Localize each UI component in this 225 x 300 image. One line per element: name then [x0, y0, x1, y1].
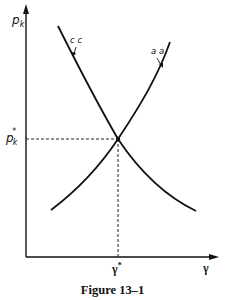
equilibrium-point [116, 137, 120, 141]
curve-aa-label: a a [151, 47, 164, 56]
y-tick-label: pk* [6, 131, 21, 147]
x-tick-label: γ* [112, 262, 122, 275]
y-tick-sub: k [13, 138, 18, 147]
x-tick-sup: * [118, 261, 122, 270]
figure-caption: Figure 13–1 [0, 283, 225, 298]
curve-cc [58, 26, 196, 211]
x-axis-arrow-icon [209, 254, 219, 260]
curve-cc-label: c c [70, 36, 82, 45]
y-axis-arrow-icon [23, 4, 29, 14]
y-tick-sup: * [12, 127, 16, 136]
x-axis-label: γ [203, 262, 209, 274]
y-axis-label-text: p [12, 13, 20, 27]
chart-canvas [0, 0, 225, 300]
y-axis-label: pk [12, 14, 24, 29]
y-axis-label-sub: k [20, 20, 25, 29]
